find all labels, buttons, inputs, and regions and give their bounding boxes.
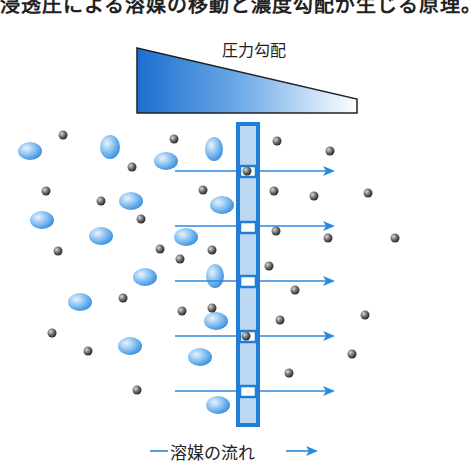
pressure-gradient-label: 圧力勾配 [222, 37, 286, 61]
solvent-molecules [42, 131, 400, 395]
semipermeable-membrane [238, 124, 258, 425]
solvent-flow-label: 溶媒の流れ [170, 439, 255, 463]
solute-molecules [18, 135, 234, 414]
